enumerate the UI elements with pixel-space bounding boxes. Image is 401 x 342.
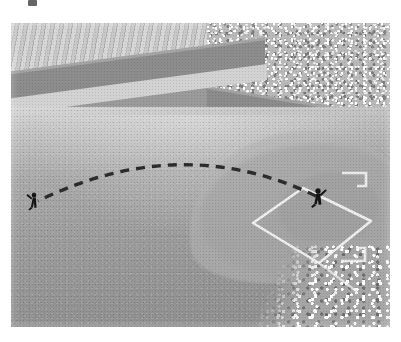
page-root: 330 (0, 0, 401, 342)
ball-trajectory-overlay (11, 23, 390, 327)
ball-trajectory-dashed-arc (38, 165, 316, 201)
scan-artifact-glyph (28, 0, 37, 6)
batter-figure (311, 188, 327, 208)
outfielder-figure (27, 193, 37, 211)
stadium-photograph: 330 (11, 23, 390, 327)
